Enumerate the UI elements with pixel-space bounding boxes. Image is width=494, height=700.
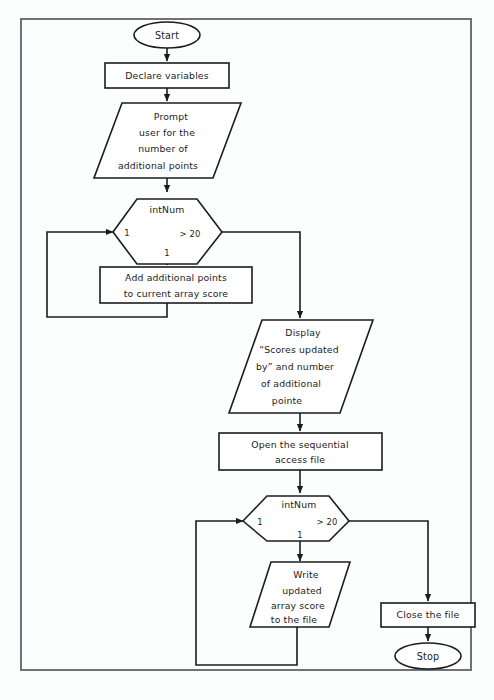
prompt-line-4: additional points	[118, 160, 198, 171]
prompt-line-3: number of	[138, 143, 188, 154]
node-start[interactable]: Start	[134, 22, 200, 48]
node-loop1[interactable]: intNum 1 > 20 1	[113, 199, 222, 264]
loop2-start-value: 1	[257, 517, 262, 527]
open-file-line-1: Open the sequential	[251, 439, 348, 450]
loop2-step-value: 1	[297, 530, 302, 540]
write-file-line-1: Write	[293, 569, 318, 580]
flowchart-page: Start Declare variables Prompt user for …	[0, 0, 494, 700]
write-file-line-2: updated	[282, 585, 322, 596]
loop2-variable-label: intNum	[282, 499, 317, 510]
write-file-line-3: array score	[271, 600, 325, 611]
display-line-4: of additional	[261, 378, 321, 389]
loop2-condition: > 20	[317, 517, 338, 527]
open-file-line-2: access file	[275, 454, 325, 465]
node-close-file[interactable]: Close the file	[381, 603, 475, 627]
display-line-1: Display	[285, 327, 321, 338]
prompt-line-1: Prompt	[154, 111, 188, 122]
connectors	[47, 48, 428, 665]
loop1-step-value: 1	[164, 248, 169, 258]
flowchart-canvas: Start Declare variables Prompt user for …	[0, 0, 494, 700]
node-stop[interactable]: Stop	[395, 643, 461, 669]
node-add-points[interactable]: Add additional points to current array s…	[100, 267, 252, 303]
declare-variables-label: Declare variables	[125, 70, 208, 81]
stop-label: Stop	[417, 651, 439, 662]
start-label: Start	[155, 30, 179, 41]
close-file-label: Close the file	[397, 609, 460, 620]
loop1-condition: > 20	[180, 229, 201, 239]
node-prompt-user[interactable]: Prompt user for the number of additional…	[94, 103, 241, 178]
node-loop2[interactable]: intNum 1 > 20 1	[243, 496, 349, 541]
prompt-line-2: user for the	[139, 127, 195, 138]
display-line-5: pointe	[272, 395, 302, 406]
node-write-file[interactable]: Write updated array score to the file	[250, 562, 350, 627]
add-points-line-2: to current array score	[124, 288, 229, 299]
loop1-start-value: 1	[124, 228, 129, 238]
connector-loop2-exit-to-close-file	[349, 521, 428, 601]
display-line-3: by” and number	[256, 361, 334, 372]
write-file-line-4: to the file	[271, 614, 317, 625]
loop1-variable-label: intNum	[150, 204, 185, 215]
node-display[interactable]: Display “Scores updated by” and number o…	[229, 320, 373, 413]
display-line-2: “Scores updated	[259, 344, 339, 355]
node-declare-variables[interactable]: Declare variables	[105, 63, 229, 88]
node-open-file[interactable]: Open the sequential access file	[219, 433, 382, 470]
add-points-line-1: Add additional points	[125, 272, 227, 283]
